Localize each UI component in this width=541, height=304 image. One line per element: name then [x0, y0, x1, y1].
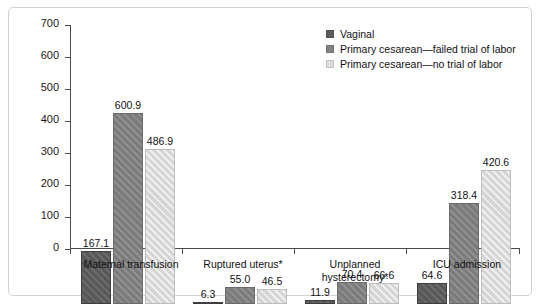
y-tick-label-200: 200: [41, 177, 59, 189]
y-tick-label-700: 700: [41, 17, 59, 29]
x-tick-4: [519, 248, 520, 254]
x-axis-category-label-0: Maternal transfusion: [76, 258, 186, 271]
bar-vaginal-icu-admission[interactable]: 64.6: [417, 283, 447, 304]
legend-item-vaginal[interactable]: Vaginal: [326, 27, 516, 40]
bar-value-label: 318.4: [451, 189, 477, 201]
y-tick-label-100: 100: [41, 209, 59, 221]
x-tick-3: [406, 248, 407, 254]
legend-label-vaginal: Vaginal: [340, 28, 374, 40]
legend-label-no-trial: Primary cesarean—no trial of labor: [340, 58, 502, 70]
bar-failed-trial-maternal-transfusion[interactable]: 600.9: [113, 113, 143, 304]
bar-no-trial-unplanned-hysterectomy[interactable]: 66.6: [369, 283, 399, 304]
bar-failed-trial-icu-admission[interactable]: 318.4: [449, 203, 479, 304]
bar-no-trial-icu-admission[interactable]: 420.6: [481, 170, 511, 304]
chart-legend: Vaginal Primary cesarean—failed trial of…: [326, 27, 516, 72]
legend-item-no-trial[interactable]: Primary cesarean—no trial of labor: [326, 57, 516, 70]
bar-value-label: 64.6: [422, 269, 442, 281]
bar-failed-trial-ruptured-uterus[interactable]: 55.0: [225, 287, 255, 304]
x-axis-category-label-2: Unplanned hysterectomy*: [300, 258, 410, 284]
bar-value-label: 46.5: [262, 275, 282, 287]
bar-value-label: 600.9: [115, 99, 141, 111]
legend-item-failed-trial[interactable]: Primary cesarean—failed trial of labor: [326, 42, 516, 55]
bar-no-trial-ruptured-uterus[interactable]: 46.5: [257, 289, 287, 304]
bar-value-label: 11.9: [310, 286, 330, 298]
legend-swatch-icon-vaginal: [326, 30, 334, 38]
y-tick-label-500: 500: [41, 81, 59, 93]
bar-value-label: 486.9: [147, 135, 173, 147]
x-tick-1: [182, 248, 183, 254]
y-axis-line: [70, 25, 71, 249]
y-tick-label-400: 400: [41, 113, 59, 125]
x-tick-2: [294, 248, 295, 254]
y-tick-label-0: 0: [53, 241, 59, 253]
x-axis-category-label-1: Ruptured uterus*: [188, 258, 298, 271]
bar-value-label: 420.6: [483, 156, 509, 168]
bar-value-label: 55.0: [230, 273, 250, 285]
legend-swatch-icon-no-trial: [326, 60, 334, 68]
y-tick-label-600: 600: [41, 49, 59, 61]
bar-value-label: 167.1: [83, 237, 109, 249]
bar-value-label: 6.3: [201, 288, 216, 300]
y-tick-label-300: 300: [41, 145, 59, 157]
x-tick-0: [70, 248, 71, 254]
bar-no-trial-maternal-transfusion[interactable]: 486.9: [145, 149, 175, 304]
bar-failed-trial-unplanned-hysterectomy[interactable]: 70.4: [337, 282, 367, 304]
legend-label-failed-trial: Primary cesarean—failed trial of labor: [340, 43, 516, 55]
legend-swatch-icon-failed-trial: [326, 45, 334, 53]
bar-vaginal-unplanned-hysterectomy[interactable]: 11.9: [305, 300, 335, 304]
chart-figure: Rate per 100,000 live births 700 600 500…: [0, 0, 541, 304]
x-axis-category-label-3: ICU admission: [412, 258, 522, 271]
